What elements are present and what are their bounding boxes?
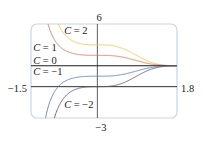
curve-label: C = −2 bbox=[64, 99, 93, 110]
x-min-label: −1.5 bbox=[8, 83, 27, 94]
curve-label: C = 0 bbox=[33, 55, 56, 66]
y-max-label: 6 bbox=[96, 12, 101, 23]
curve-label: C = 2 bbox=[64, 25, 87, 36]
x-max-label: 1.8 bbox=[181, 83, 194, 94]
direction-field-chart: 6 −3 −1.5 1.8 C = 2C = 1C = 0C = −1C = −… bbox=[0, 0, 203, 144]
curve-label: C = −1 bbox=[33, 66, 62, 77]
curve-label: C = 1 bbox=[33, 42, 56, 53]
y-min-label: −3 bbox=[95, 122, 106, 133]
